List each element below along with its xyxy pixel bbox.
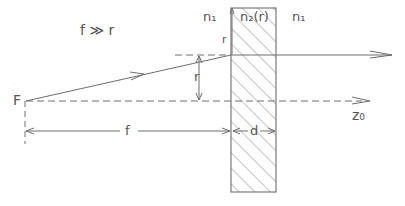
medium-left-label: n₁ [203, 10, 216, 23]
focal-point-label: F [13, 93, 21, 107]
ray-height-label: r [194, 70, 199, 83]
slab-index-label: n₂(r) [240, 10, 269, 23]
thickness-label: d [250, 124, 258, 137]
condition-label: f ≫ r [80, 23, 114, 37]
medium-right-label: n₁ [292, 10, 305, 23]
grin-slab [231, 8, 276, 192]
small-r-label: r [222, 34, 227, 45]
diagram-canvas [0, 0, 405, 206]
axis-z-label: z₀ [352, 108, 365, 122]
incident-ray [26, 55, 231, 101]
focal-length-label: f [125, 124, 130, 137]
